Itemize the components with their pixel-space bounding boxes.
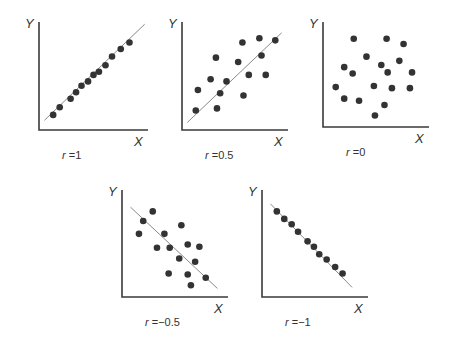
data-point bbox=[363, 53, 370, 60]
data-point bbox=[165, 270, 172, 277]
data-point bbox=[332, 264, 339, 271]
data-point bbox=[192, 258, 199, 265]
data-point bbox=[166, 244, 173, 251]
data-point bbox=[240, 92, 247, 99]
correlation-label: r =1 bbox=[62, 149, 81, 161]
data-point bbox=[304, 238, 311, 245]
data-point bbox=[400, 41, 407, 48]
scatter-panel-r-neg-0.5: YXr =−0.5 bbox=[108, 184, 228, 328]
scatter-panel-r-0.5: YXr =0.5 bbox=[168, 16, 288, 161]
data-point bbox=[50, 112, 57, 119]
data-point bbox=[258, 52, 265, 59]
data-point bbox=[214, 105, 221, 112]
data-point bbox=[217, 90, 224, 97]
data-point bbox=[281, 216, 288, 223]
data-point bbox=[256, 35, 263, 42]
data-point bbox=[381, 102, 388, 109]
data-point bbox=[239, 39, 246, 46]
data-point bbox=[178, 222, 185, 229]
data-point bbox=[272, 37, 279, 44]
data-point bbox=[311, 243, 318, 250]
axes bbox=[262, 190, 368, 297]
data-point bbox=[372, 112, 379, 119]
data-point bbox=[161, 231, 168, 238]
data-point bbox=[188, 282, 195, 289]
correlation-label: r =0 bbox=[346, 146, 365, 158]
x-axis-label: X bbox=[213, 301, 224, 316]
data-point bbox=[341, 95, 348, 102]
data-point bbox=[56, 104, 63, 111]
data-point bbox=[136, 231, 143, 238]
correlation-label: r =−0.5 bbox=[145, 316, 180, 328]
y-axis-label: Y bbox=[108, 184, 118, 199]
data-point bbox=[389, 85, 396, 92]
data-point bbox=[396, 58, 403, 65]
data-point bbox=[176, 255, 183, 262]
data-point bbox=[371, 83, 378, 90]
y-axis-label: Y bbox=[25, 16, 35, 31]
scatter-panel-r-0: YXr =0 bbox=[309, 16, 429, 158]
x-axis-label: X bbox=[133, 134, 144, 149]
data-point bbox=[407, 85, 414, 92]
axes bbox=[122, 190, 228, 297]
y-axis-label: Y bbox=[248, 184, 258, 199]
data-point bbox=[67, 95, 74, 102]
data-point bbox=[339, 270, 346, 277]
data-point bbox=[378, 62, 385, 69]
data-point bbox=[192, 107, 199, 114]
data-point bbox=[109, 53, 116, 60]
data-point bbox=[316, 251, 323, 258]
data-point bbox=[341, 64, 348, 71]
data-point bbox=[73, 89, 80, 96]
data-point bbox=[202, 274, 209, 281]
data-point bbox=[140, 218, 147, 225]
x-axis-label: X bbox=[273, 134, 284, 149]
data-point bbox=[126, 39, 133, 46]
data-point bbox=[207, 76, 214, 83]
correlation-label: r =−1 bbox=[285, 316, 311, 328]
correlation-scatter-figure: YXr =1 YXr =0.5 YXr =0 YXr =−0.5 YXr =−1 bbox=[0, 0, 453, 344]
y-axis-label: Y bbox=[309, 16, 319, 31]
data-point bbox=[349, 70, 356, 77]
data-point bbox=[356, 97, 363, 104]
data-point bbox=[102, 62, 109, 69]
data-point bbox=[213, 54, 220, 61]
y-axis-label: Y bbox=[168, 16, 178, 31]
data-point bbox=[149, 208, 156, 215]
data-point bbox=[409, 69, 416, 76]
data-point bbox=[184, 271, 191, 278]
data-point bbox=[332, 84, 339, 91]
data-point bbox=[288, 221, 295, 228]
data-point bbox=[383, 36, 390, 43]
data-point bbox=[154, 244, 161, 251]
data-point bbox=[350, 36, 357, 43]
x-axis-label: X bbox=[414, 131, 425, 146]
data-point bbox=[195, 87, 202, 94]
data-point bbox=[184, 241, 191, 248]
data-point bbox=[96, 68, 103, 75]
axes bbox=[182, 22, 288, 130]
data-point bbox=[262, 72, 269, 79]
data-point bbox=[323, 256, 330, 263]
data-point bbox=[223, 78, 230, 85]
data-point bbox=[235, 59, 242, 66]
x-axis-label: X bbox=[353, 301, 364, 316]
data-point bbox=[196, 243, 203, 250]
data-point bbox=[245, 72, 252, 79]
data-point bbox=[85, 78, 92, 85]
data-point bbox=[117, 46, 124, 53]
scatter-panel-r-neg-1: YXr =−1 bbox=[248, 184, 368, 328]
data-point bbox=[295, 228, 302, 235]
correlation-label: r =0.5 bbox=[205, 149, 233, 161]
data-point bbox=[384, 69, 391, 76]
scatter-panel-r-1: YXr =1 bbox=[25, 16, 148, 161]
data-point bbox=[78, 82, 85, 89]
data-point bbox=[274, 208, 281, 215]
